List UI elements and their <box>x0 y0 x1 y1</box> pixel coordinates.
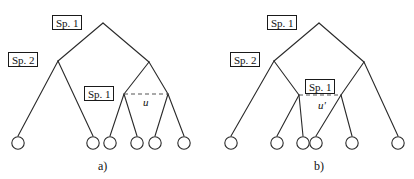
panel-caption-a: a) <box>98 160 107 172</box>
tree-branch <box>274 61 299 95</box>
tree-leaf-3 <box>297 137 309 149</box>
tree-branch <box>168 94 184 136</box>
tree-branch <box>149 62 168 94</box>
tree-leaf-1 <box>12 137 24 149</box>
tree-branch <box>277 95 299 136</box>
tree-branch <box>155 94 168 136</box>
tree-branch <box>319 23 364 62</box>
tree-branch <box>341 95 352 136</box>
tree-branch <box>299 95 303 136</box>
phylogenetic-tree-figure: Sp. 1Sp. 2Sp. 1ua)Sp. 1Sp. 2Sp. 1u'b) <box>0 0 414 179</box>
coalescence-time-label-panel-a: u <box>143 97 149 108</box>
tree-leaf-5 <box>346 137 358 149</box>
species-label-sp1-root-panel-b: Sp. 1 <box>267 15 297 30</box>
species-label-sp1-inner-panel-b: Sp. 1 <box>305 79 335 94</box>
tree-leaf-6 <box>178 137 190 149</box>
tree-branch <box>364 62 398 136</box>
tree-leaf-6 <box>392 137 404 149</box>
tree-branch <box>18 61 58 136</box>
species-label-sp2-left-panel-a: Sp. 2 <box>8 52 38 67</box>
panel-caption-b: b) <box>314 160 324 172</box>
tree-leaf-5 <box>149 137 161 149</box>
species-label-sp1-inner-panel-a: Sp. 1 <box>84 86 114 101</box>
tree-branch <box>124 94 137 136</box>
species-label-sp1-root-panel-a: Sp. 1 <box>52 15 82 30</box>
coalescence-time-label-panel-b: u' <box>318 100 326 111</box>
species-label-sp2-left-panel-b: Sp. 2 <box>230 52 260 67</box>
tree-leaf-4 <box>131 137 143 149</box>
tree-branch <box>231 61 274 136</box>
tree-branch <box>341 62 364 95</box>
tree-leaf-2 <box>271 137 283 149</box>
tree-leaf-2 <box>87 137 99 149</box>
tree-leaf-4 <box>310 137 322 149</box>
tree-branch <box>124 62 149 94</box>
tree-branch <box>103 23 149 62</box>
tree-leaf-1 <box>225 137 237 149</box>
tree-leaf-3 <box>104 137 116 149</box>
